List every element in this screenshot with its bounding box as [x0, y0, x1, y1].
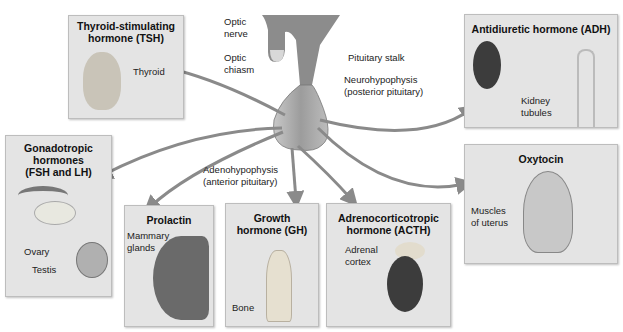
- box-adh: Antidiuretic hormone (ADH) Kidney tubule…: [464, 14, 618, 128]
- box-gonadotropic: Gonadotropic hormones (FSH and LH) Ovary…: [5, 135, 112, 297]
- arrow-to-oxytocin: [318, 128, 465, 187]
- label-optic-nerve: Optic nerve: [224, 16, 248, 40]
- tsh-target: Thyroid: [133, 66, 165, 78]
- label-neurohypophysis: Neurohypophysis (posterior pituitary): [344, 74, 423, 98]
- tubule-illustration: [577, 49, 595, 127]
- pituitary-gland: [274, 85, 329, 150]
- label-pituitary-stalk: Pituitary stalk: [348, 52, 405, 64]
- oxytocin-target: Muscles of uterus: [471, 205, 508, 229]
- box-tsh: Thyroid-stimulating hormone (TSH) Thyroi…: [68, 15, 184, 119]
- arrow-to-adh: [320, 110, 470, 130]
- gh-target: Bone: [232, 302, 254, 314]
- arrow-to-gh: [292, 148, 296, 200]
- adh-title: Antidiuretic hormone (ADH): [465, 23, 617, 35]
- prolactin-title: Prolactin: [125, 214, 213, 226]
- arrow-to-acth: [298, 146, 352, 200]
- label-adenohypophysis: Adenohypophysis (anterior pituitary): [203, 164, 278, 188]
- adh-target: Kidney tubules: [521, 95, 552, 119]
- kidney-illustration: [387, 256, 423, 312]
- mammary-illustration: [153, 236, 209, 320]
- thyroid-illustration: [83, 52, 121, 110]
- ovary-label: Ovary: [24, 246, 49, 258]
- testis-label: Testis: [32, 264, 56, 276]
- hypothalamus-stalk: [262, 15, 340, 85]
- oxytocin-title: Oxytocin: [465, 153, 617, 165]
- bone-illustration: [266, 250, 292, 322]
- testis-illustration: [76, 242, 108, 278]
- gonadotropic-title: Gonadotropic hormones (FSH and LH): [6, 142, 111, 178]
- acth-title: Adrenocorticotropic hormone (ACTH): [327, 212, 450, 236]
- gh-title: Growth hormone (GH): [226, 212, 318, 236]
- fallopian-illustration: [18, 186, 68, 205]
- box-prolactin: Prolactin Mammary glands: [124, 205, 214, 327]
- label-optic-chiasm: Optic chiasm: [224, 52, 254, 76]
- kidney-illustration: [473, 41, 501, 89]
- box-oxytocin: Oxytocin Muscles of uterus: [464, 144, 618, 264]
- box-gh: Growth hormone (GH) Bone: [225, 203, 319, 327]
- acth-target: Adrenal cortex: [345, 244, 378, 268]
- box-acth: Adrenocorticotropic hormone (ACTH) Adren…: [326, 203, 451, 327]
- tsh-title: Thyroid-stimulating hormone (TSH): [69, 20, 183, 44]
- uterus-illustration: [523, 171, 573, 253]
